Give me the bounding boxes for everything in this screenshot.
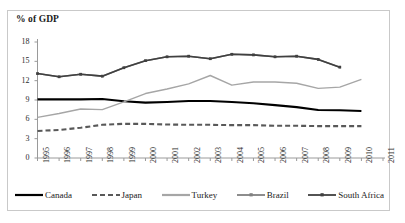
legend-item-canada[interactable]: Canada	[14, 190, 72, 200]
y-axis-tick-label: 12	[14, 76, 30, 85]
series-marker-south-africa	[79, 73, 82, 76]
x-axis-tick-label: 2000	[149, 147, 158, 163]
x-axis-tick-label: 1997	[85, 147, 94, 163]
legend-label: Turkey	[192, 190, 218, 200]
series-line-turkey	[38, 76, 362, 118]
legend-swatch-brazil-icon	[236, 190, 266, 200]
series-marker-south-africa	[339, 66, 342, 69]
series-marker-south-africa	[252, 54, 255, 57]
legend-swatch-turkey-icon	[161, 190, 191, 200]
series-marker-south-africa	[231, 53, 234, 56]
legend-item-brazil[interactable]: Brazil	[236, 190, 289, 200]
series-marker-south-africa	[36, 72, 39, 75]
x-axis-tick-label: 1999	[128, 147, 137, 163]
legend-label: South Africa	[338, 190, 384, 200]
x-axis-tick-label: 2009	[344, 147, 353, 163]
series-marker-south-africa	[187, 55, 190, 58]
chart-figure: % of GDP 0369121518 19951996199719981999…	[0, 0, 405, 223]
y-axis-tick-label: 18	[14, 37, 30, 46]
series-marker-south-africa	[166, 56, 169, 59]
series-marker-south-africa	[101, 75, 104, 78]
y-axis-tick-label: 6	[14, 114, 30, 123]
legend-swatch-south-africa-icon	[307, 190, 337, 200]
x-axis-tick-label: 2007	[301, 147, 310, 163]
legend-item-south-africa[interactable]: South Africa	[307, 190, 384, 200]
series-marker-south-africa	[123, 66, 126, 69]
series-line-japan	[38, 124, 362, 131]
y-axis-tick-label: 3	[14, 134, 30, 143]
legend-label: Canada	[45, 190, 72, 200]
x-axis-tick-label: 2004	[236, 147, 245, 163]
x-axis-tick-label: 2010	[365, 147, 374, 163]
y-axis-tick-label: 15	[14, 56, 30, 65]
series-marker-south-africa	[209, 57, 212, 60]
series-marker-south-africa	[295, 55, 298, 58]
series-group	[36, 53, 361, 131]
series-marker-south-africa	[274, 56, 277, 59]
x-axis-tick-label: 2005	[257, 147, 266, 163]
x-axis-tick-label: 2002	[193, 147, 202, 163]
legend-swatch-japan-icon	[91, 190, 121, 200]
x-axis-tick-label: 1995	[42, 147, 51, 163]
y-axis-tick-label: 9	[14, 95, 30, 104]
x-axis-tick-label: 2006	[279, 147, 288, 163]
series-marker-south-africa	[58, 76, 61, 79]
series-line-south-africa	[38, 54, 340, 77]
legend-label: Japan	[122, 190, 143, 200]
series-marker-south-africa	[317, 58, 320, 61]
series-marker-south-africa	[144, 59, 147, 62]
legend-label: Brazil	[267, 190, 289, 200]
y-axis-tick-label: 0	[14, 153, 30, 162]
legend-item-japan[interactable]: Japan	[91, 190, 143, 200]
x-axis-tick-label: 1996	[63, 147, 72, 163]
x-axis-tick-label: 2011	[387, 147, 396, 163]
chart-legend: CanadaJapanTurkeyBrazilSouth Africa	[14, 186, 384, 204]
x-axis-tick-label: 2008	[322, 147, 331, 163]
x-axis-tick-label: 1998	[106, 147, 115, 163]
legend-item-turkey[interactable]: Turkey	[161, 190, 218, 200]
x-axis-tick-label: 2003	[214, 147, 223, 163]
legend-swatch-canada-icon	[14, 190, 44, 200]
series-line-brazil	[38, 54, 340, 77]
x-axis-tick-label: 2001	[171, 147, 180, 163]
